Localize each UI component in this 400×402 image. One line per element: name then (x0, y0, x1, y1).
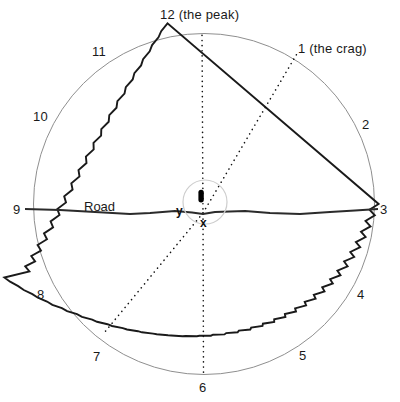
sight-line-six (203, 214, 204, 374)
hour-label-8: 8 (37, 288, 44, 301)
hour-label-6: 6 (199, 381, 206, 394)
jagged-horizon-ring (4, 23, 378, 336)
hour-label-12: 12 (the peak) (160, 8, 239, 21)
hour-label-1: 1 (the crag) (298, 42, 367, 55)
sight-line-crag (203, 52, 298, 213)
hour-label-4: 4 (357, 288, 364, 301)
observer-blob-marker (198, 190, 203, 203)
road-line (25, 209, 378, 214)
y-axis-label: y (176, 205, 183, 217)
road-label: Road (84, 200, 115, 213)
hour-label-11: 11 (92, 45, 106, 58)
hour-label-10: 10 (33, 110, 48, 123)
x-axis-label: x (200, 217, 207, 229)
diagram-canvas (0, 0, 400, 402)
hour-label-5: 5 (299, 349, 306, 362)
hour-label-3: 3 (380, 203, 387, 216)
hour-label-2: 2 (362, 118, 369, 131)
sight-line-seven (104, 213, 203, 333)
hour-label-9: 9 (13, 203, 20, 216)
hour-label-7: 7 (93, 350, 100, 363)
sight-line-peak (202, 34, 203, 214)
bearing-diagram: 12 (the peak) 1 (the crag) 2 3 4 5 6 7 8… (0, 0, 400, 402)
